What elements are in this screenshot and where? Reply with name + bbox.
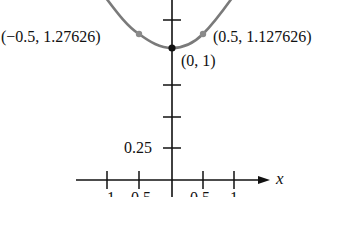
x-tick-label-neg1: −1 [98, 190, 115, 197]
point-min-marker [168, 44, 175, 51]
point-left-marker [136, 31, 142, 37]
x-axis-label: x [276, 170, 284, 187]
x-tick-label-1: 1 [230, 190, 238, 197]
point-min-label: (0, 1) [181, 53, 216, 69]
point-left-label: (−0.5, 1.27626) [1, 29, 101, 45]
y-tick-label-025: 0.25 [124, 140, 152, 156]
x-tick-label-05: 0.5 [190, 190, 210, 197]
point-right-label: (0.5, 1.127626) [213, 29, 312, 45]
x-tick-label-neg05: −0.5 [122, 190, 151, 197]
point-right-marker [200, 31, 206, 37]
x-axis-arrow-icon [258, 176, 270, 184]
